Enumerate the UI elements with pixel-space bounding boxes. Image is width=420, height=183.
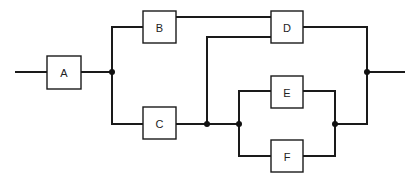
block-b-label: B (156, 22, 163, 34)
block-f: F (271, 140, 303, 172)
wire-split-e-f (239, 91, 271, 156)
junction-dot (364, 69, 370, 75)
block-a: A (47, 56, 81, 89)
block-e: E (271, 76, 303, 108)
wire-split-b-c (112, 27, 143, 124)
block-d-label: D (283, 22, 291, 34)
block-c: C (143, 107, 176, 139)
block-e-label: E (283, 87, 290, 99)
block-f-label: F (284, 151, 291, 163)
wire-merge-e-f (303, 91, 335, 156)
block-d: D (271, 11, 303, 43)
block-a-label: A (60, 67, 68, 79)
junction-dot (109, 69, 115, 75)
block-b: B (143, 11, 176, 43)
junction-dot (204, 121, 210, 127)
junction-dot (236, 121, 242, 127)
reliability-block-diagram: A B C D E F (0, 0, 420, 183)
junction-dot (332, 121, 338, 127)
block-c-label: C (156, 118, 164, 130)
